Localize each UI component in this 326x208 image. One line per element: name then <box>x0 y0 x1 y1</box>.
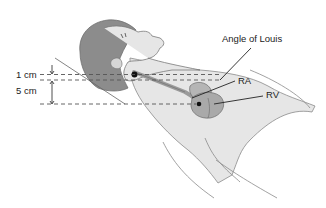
label-rv: RV <box>266 90 279 100</box>
label-ra: RA <box>238 76 251 86</box>
ear-shape <box>111 58 122 69</box>
label-angle-of-louis: Angle of Louis <box>222 34 282 44</box>
label-5cm: 5 cm <box>16 86 37 96</box>
illustration <box>0 0 326 208</box>
jvp-diagram: Angle of Louis RA RV 1 cm 5 cm <box>0 0 326 208</box>
label-1cm: 1 cm <box>16 70 37 80</box>
ra-point <box>197 102 202 107</box>
